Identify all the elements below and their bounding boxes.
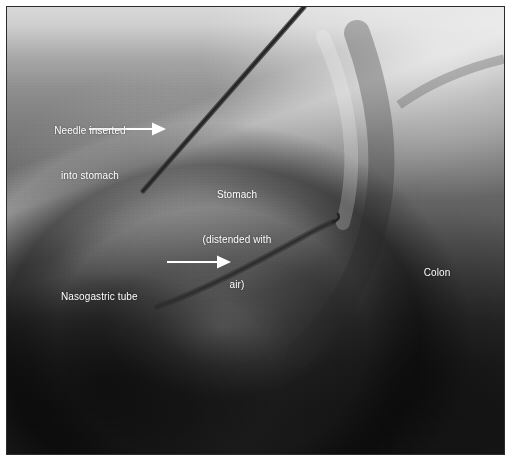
stomach-label-line3: air) (167, 277, 307, 292)
stomach-label: Stomach (distended with air) (167, 157, 307, 322)
soft-tissue-interface (399, 59, 504, 105)
colon-label-line1: Colon (402, 265, 472, 280)
stomach-label-line2: (distended with (167, 232, 307, 247)
stomach-air-rim (323, 37, 351, 223)
nasogastric-tube-tip (333, 214, 339, 222)
radiograph-frame: Needle inserted into stomach Stomach (di… (6, 6, 505, 455)
screenshot-root: Needle inserted into stomach Stomach (di… (0, 0, 513, 470)
needle-label-line2: into stomach (35, 168, 145, 183)
nasogastric-tube-label: Nasogastric tube (61, 259, 171, 334)
colon-label: Colon (402, 235, 472, 310)
stomach-label-line1: Stomach (167, 187, 307, 202)
nasogastric-label-line1: Nasogastric tube (61, 289, 171, 304)
needle-label-line1: Needle inserted (35, 123, 145, 138)
needle-label: Needle inserted into stomach (35, 93, 145, 213)
